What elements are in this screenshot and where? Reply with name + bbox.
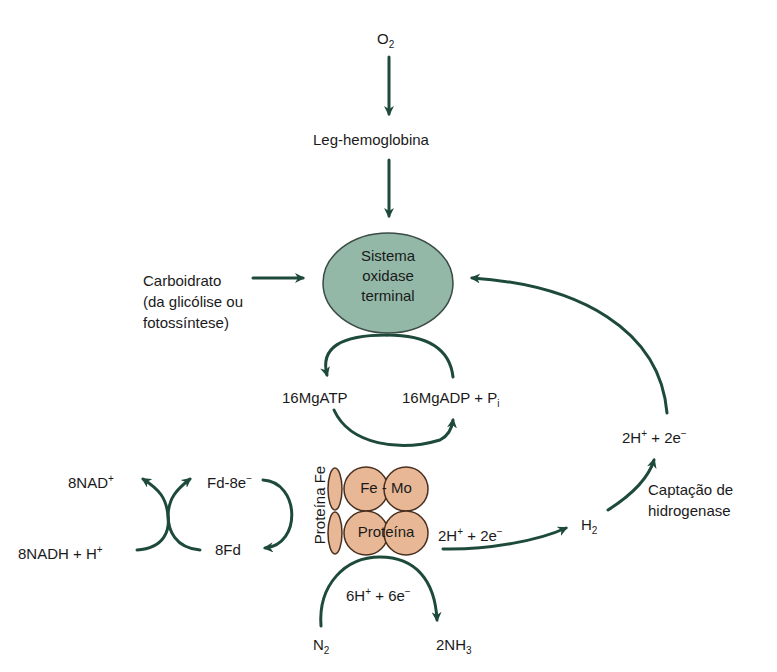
arrow-mgatp-to-mgadp bbox=[334, 410, 453, 445]
label-2h-2e-right: 2H+ + 2e− bbox=[438, 523, 503, 545]
label-femo-top: Fe - Mo bbox=[344, 479, 428, 496]
arrow-to-mgatp bbox=[326, 335, 387, 375]
label-mgadp: 16MgADP + Pi bbox=[402, 389, 499, 413]
arrow-hydrogenase-to-oxidase bbox=[472, 278, 667, 413]
arrow-fd8e-to-8fd bbox=[263, 480, 292, 548]
label-n2: N2 bbox=[313, 636, 329, 660]
label-o2: O2 bbox=[377, 30, 394, 54]
arrow-from-mgadp bbox=[387, 335, 453, 377]
label-h2: H2 bbox=[581, 516, 597, 540]
arrow-8fd-to-fd8e bbox=[168, 479, 200, 550]
label-6h-6e: 6H+ + 6e− bbox=[346, 583, 411, 605]
label-8fd: 8Fd bbox=[215, 541, 241, 559]
arrow-nadh-to-nad bbox=[137, 479, 168, 550]
label-nad: 8NAD+ bbox=[68, 470, 114, 492]
label-nh3: 2NH3 bbox=[436, 636, 472, 660]
label-fd-8e: Fd-8e− bbox=[207, 470, 252, 492]
label-leg-hemoglobina: Leg-hemoglobina bbox=[313, 131, 429, 149]
label-2h-2e-top: 2H+ + 2e− bbox=[622, 425, 687, 447]
label-mgatp: 16MgATP bbox=[282, 389, 348, 407]
pathway-diagram bbox=[0, 0, 777, 672]
fe-protein-ellipse-top bbox=[328, 468, 342, 510]
fe-protein-ellipse-bottom bbox=[328, 512, 342, 554]
label-captacao-hidrogenase: Captação de hidrogenase bbox=[648, 479, 733, 521]
label-proteina-fe: Proteína Fe bbox=[311, 463, 329, 547]
label-oxidase-system: Sistema oxidase terminal bbox=[323, 246, 453, 306]
label-nadh: 8NADH + H+ bbox=[18, 541, 103, 563]
label-femo-bottom: Proteína bbox=[344, 523, 428, 540]
label-carboidrato: Carboidrato (da glicólise ou fotossíntes… bbox=[143, 270, 243, 333]
